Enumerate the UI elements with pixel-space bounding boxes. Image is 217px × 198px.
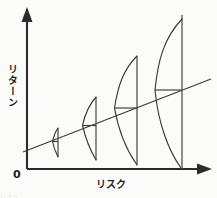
distribution-1-curve [53, 128, 59, 157]
axes-group [22, 7, 213, 175]
distribution-3-curve [115, 56, 138, 165]
trend-line [23, 79, 211, 152]
trend-line-group [23, 79, 211, 152]
distribution-3 [115, 56, 138, 165]
distribution-4-curve [155, 19, 182, 168]
risk-return-figure: リターン リスク 0 リスク [0, 0, 217, 198]
y-axis-label: リターン [6, 64, 18, 108]
origin-label: 0 [13, 168, 21, 181]
distribution-1 [53, 128, 59, 157]
scan-bleed-text: リスク [0, 192, 217, 198]
y-axis-arrowhead-icon [22, 7, 33, 22]
x-axis-arrowhead-icon [197, 164, 212, 175]
x-axis-label: リスク [96, 176, 126, 191]
chart-canvas [0, 0, 217, 198]
